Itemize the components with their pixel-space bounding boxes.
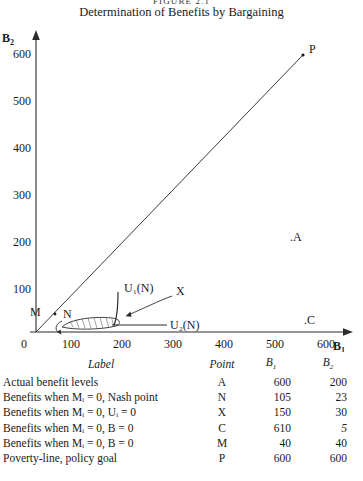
x-tick-400: 400 [215, 337, 233, 351]
row-point: N [199, 390, 245, 405]
table-header-row: Label Point B1 B2 [3, 355, 359, 374]
table-row: Actual benefit levels A 600 200 [3, 374, 359, 389]
column-header-label: Label [3, 355, 199, 374]
point-A-label: .A [290, 230, 302, 244]
row-b1: 600 [245, 374, 297, 389]
x-tick-500: 500 [266, 337, 284, 351]
y-tick-300: 300 [13, 188, 31, 202]
row-b2: 40 [297, 435, 359, 450]
row-b2: 30 [297, 405, 359, 420]
point-X-leader-arrow [126, 312, 132, 317]
table-row: Benefits when Mᵢ = 0, Nash point N 105 2… [3, 390, 359, 405]
point-C-label: .C [304, 313, 315, 327]
row-b2: 200 [297, 374, 359, 389]
table-row: Benefits when Mᵢ = 0, Uᵢ = 0 X 150 30 [3, 405, 359, 420]
row-label: Benefits when Mᵢ = 0, B = 0 [3, 420, 199, 435]
row-b2: 600 [297, 451, 359, 466]
point-N-leader-arrow [57, 330, 62, 335]
row-point: P [199, 451, 245, 466]
row-b1: 105 [245, 390, 297, 405]
row-point: M [199, 435, 245, 450]
row-label: Actual benefit levels [3, 374, 199, 389]
point-P-label: P [309, 42, 316, 56]
y-axis-label: B2 [2, 31, 14, 47]
x-axis-label: B1 [333, 339, 345, 352]
point-M-label: M [30, 305, 41, 319]
point-N-label: N [63, 307, 72, 321]
y-tick-600: 600 [13, 47, 31, 61]
forty-five-degree-ray [36, 56, 302, 332]
table-row: Benefits when Mᵢ = 0, B = 0 M 40 40 [3, 435, 359, 450]
x-tick-100: 100 [62, 337, 80, 351]
figure-title: Determination of Benefits by Bargaining [0, 5, 363, 20]
column-header-b1: B1 [245, 355, 297, 374]
row-b2: 23 [297, 390, 359, 405]
y-tick-200: 200 [13, 235, 31, 249]
row-label: Benefits when Mᵢ = 0, Nash point [3, 390, 199, 405]
row-label: Poverty-line, policy goal [3, 451, 199, 466]
row-point: A [199, 374, 245, 389]
y-tick-100: 100 [13, 282, 31, 296]
point-X-leader [128, 296, 172, 315]
point-M-marker [54, 313, 57, 316]
row-b1: 40 [245, 435, 297, 450]
row-b2: 5 [297, 420, 359, 435]
row-label: Benefits when Mᵢ = 0, B = 0 [3, 435, 199, 450]
table-body: Actual benefit levels A 600 200 Benefits… [3, 374, 359, 466]
row-point: C [199, 420, 245, 435]
u2-label: U₂(N) [170, 318, 200, 332]
y-axis-arrowhead [32, 30, 40, 40]
x-tick-200: 200 [113, 337, 131, 351]
row-b1: 600 [245, 451, 297, 466]
table-row: Poverty-line, policy goal P 600 600 [3, 451, 359, 466]
row-b1: 150 [245, 405, 297, 420]
bargaining-scatter-chart: 600 500 400 300 200 100 B2 0 100 200 300… [0, 22, 363, 352]
points-table-container: Label Point B1 B2 Actual benefit levels … [0, 355, 363, 466]
y-tick-400: 400 [13, 141, 31, 155]
x-tick-300: 300 [164, 337, 182, 351]
column-header-b2: B2 [297, 355, 359, 374]
x-tick-0: 0 [21, 337, 27, 351]
figure-page: FIGURE 2.1 Determination of Benefits by … [0, 0, 363, 481]
x-axis-arrowhead [343, 328, 353, 336]
column-header-point: Point [199, 355, 245, 374]
figure-number: FIGURE 2.1 [0, 0, 363, 4]
table-row: Benefits when Mᵢ = 0, B = 0 C 610 5 [3, 420, 359, 435]
table-head: Label Point B1 B2 [3, 355, 359, 374]
row-point: X [199, 405, 245, 420]
row-b1: 610 [245, 420, 297, 435]
points-table: Label Point B1 B2 Actual benefit levels … [3, 355, 359, 466]
chart-area: 600 500 400 300 200 100 B2 0 100 200 300… [0, 22, 363, 352]
u1-label: U₁(N) [124, 281, 154, 295]
y-tick-500: 500 [13, 94, 31, 108]
point-X-label: X [176, 284, 185, 298]
point-P-marker [301, 53, 304, 56]
row-label: Benefits when Mᵢ = 0, Uᵢ = 0 [3, 405, 199, 420]
